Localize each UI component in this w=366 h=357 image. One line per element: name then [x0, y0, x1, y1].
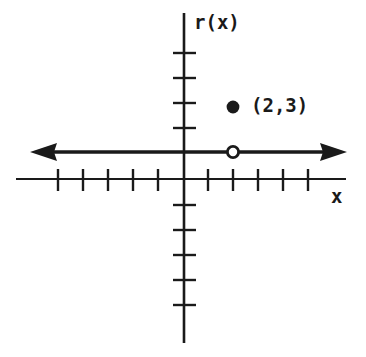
ray-right-arrowhead: [320, 143, 347, 161]
open-circle-hole-marker: [227, 146, 238, 157]
function-graph-figure: r(x) x (2,3): [0, 0, 366, 357]
x-axis-label: x: [331, 185, 342, 207]
coordinate-plane-svg: [0, 0, 366, 357]
point-coordinate-label: (2,3): [251, 94, 308, 116]
y-axis-label: r(x): [194, 11, 240, 33]
ray-left-arrowhead: [30, 143, 57, 161]
filled-point-marker: [227, 101, 240, 114]
